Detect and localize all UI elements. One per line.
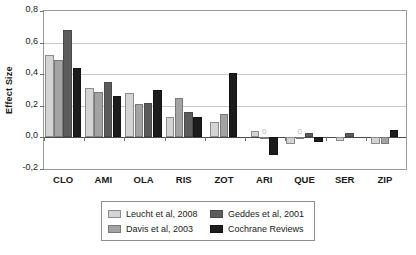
bar-que-series-2 — [305, 133, 314, 138]
bar-ris-series-3 — [193, 117, 202, 138]
bar-zot-series-3 — [229, 73, 238, 138]
bar-group-zip — [366, 11, 406, 169]
legend-swatch-icon — [108, 225, 121, 233]
bar-zip-series-0 — [371, 137, 380, 143]
bar-que-series-3 — [314, 137, 323, 142]
x-tick-mark — [165, 137, 166, 141]
legend-swatch-icon — [108, 210, 121, 218]
legend-entry-s1[interactable]: Davis et al, 2003 — [108, 224, 206, 234]
x-tick-label-clo: CLO — [53, 175, 73, 185]
y-tick-label: 0,2 — [25, 99, 38, 108]
bar-ari-series-0 — [251, 131, 260, 137]
bar-ris-series-1 — [175, 98, 184, 138]
x-tick-label-ola: OLA — [134, 175, 154, 185]
y-axis-tick-labels: 0,80,60,40,20,0-0,2 — [14, 8, 41, 172]
legend-label: Geddes et al, 2001 — [228, 209, 304, 219]
x-tick-mark — [124, 137, 125, 141]
legend-swatch-icon — [210, 210, 223, 218]
legend-entry-s0[interactable]: Leucht et al, 2008 — [108, 209, 206, 219]
legend-label: Davis et al, 2003 — [126, 224, 193, 234]
legend-entry-s2[interactable]: Geddes et al, 2001 — [210, 209, 308, 219]
bar-que-series-1 — [296, 137, 305, 139]
x-tick-label-ami: AMI — [95, 175, 112, 185]
plot-area: 00 — [43, 10, 407, 170]
bar-zip-series-3 — [390, 130, 399, 138]
y-tick-label: -0,2 — [22, 163, 38, 172]
x-tick-mark — [84, 137, 85, 141]
bar-ami-series-2 — [104, 82, 113, 137]
bar-clo-series-1 — [54, 60, 63, 137]
bar-clo-series-0 — [45, 55, 54, 137]
x-tick-mark — [326, 137, 327, 141]
x-tick-label-que: QUE — [294, 175, 315, 185]
bar-que-series-0 — [286, 137, 295, 143]
legend-label: Leucht et al, 2008 — [126, 209, 198, 219]
x-tick-mark — [44, 137, 45, 141]
bar-group-ris — [165, 11, 205, 169]
bar-group-clo — [44, 11, 84, 169]
x-axis-tick-labels: CLOAMIOLARISZOTARIQUESERZIP — [43, 175, 407, 189]
bar-ami-series-0 — [85, 88, 94, 137]
bar-clo-series-3 — [73, 68, 82, 138]
legend-entry-s3[interactable]: Cochrane Reviews — [210, 224, 308, 234]
y-tick-label: 0,0 — [25, 131, 38, 140]
bar-ola-series-2 — [144, 103, 153, 138]
x-tick-mark — [205, 137, 206, 141]
bar-zot-series-1 — [220, 114, 229, 138]
bar-ola-series-1 — [135, 104, 144, 137]
chart-legend: Leucht et al, 2008Geddes et al, 2001Davi… — [101, 201, 315, 241]
y-tick-label: 0,4 — [25, 68, 38, 77]
bar-ris-series-0 — [166, 117, 175, 138]
legend-swatch-icon — [210, 225, 223, 233]
bar-ari-series-1 — [260, 137, 269, 139]
bar-groups: 00 — [44, 11, 406, 169]
x-tick-label-zip: ZIP — [377, 175, 392, 185]
bar-ola-series-0 — [125, 93, 134, 137]
y-tick-label: 0,6 — [25, 36, 38, 45]
legend-label: Cochrane Reviews — [228, 224, 304, 234]
zero-value-label: 0 — [298, 128, 302, 136]
bar-group-ari: 0 — [245, 11, 285, 169]
y-tick-mark — [40, 169, 44, 170]
bar-ari-series-3 — [269, 137, 278, 154]
effect-size-bar-chart: Effect Size 0,80,60,40,20,0-0,2 00 CLOAM… — [0, 0, 416, 255]
x-tick-label-ser: SER — [335, 175, 355, 185]
bar-clo-series-2 — [63, 30, 72, 137]
bar-ami-series-1 — [94, 92, 103, 138]
bar-ami-series-3 — [113, 96, 122, 137]
bar-group-ami — [84, 11, 124, 169]
x-tick-label-zot: ZOT — [215, 175, 234, 185]
bar-ser-series-2 — [345, 133, 354, 138]
zero-value-label: 0 — [262, 128, 266, 136]
bar-ser-series-0 — [336, 137, 345, 140]
x-tick-mark — [285, 137, 286, 141]
y-tick-label: 0,8 — [25, 5, 38, 14]
x-tick-mark — [245, 137, 246, 141]
x-tick-label-ari: ARI — [256, 175, 272, 185]
bar-ris-series-2 — [184, 112, 193, 137]
bar-zot-series-0 — [210, 122, 219, 138]
bar-group-que: 0 — [285, 11, 325, 169]
bar-ola-series-3 — [153, 90, 162, 137]
bar-group-zot — [205, 11, 245, 169]
bar-group-ola — [124, 11, 164, 169]
bar-zip-series-1 — [381, 137, 390, 143]
x-tick-label-ris: RIS — [176, 175, 192, 185]
x-tick-mark — [366, 137, 367, 141]
bar-group-ser — [326, 11, 366, 169]
